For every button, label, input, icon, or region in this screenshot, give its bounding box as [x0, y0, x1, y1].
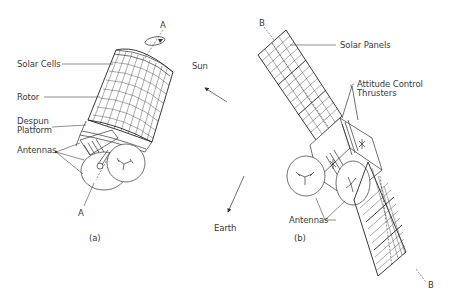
label-rotor: Rotor — [17, 93, 39, 102]
axis-label-a-top: A — [160, 21, 166, 30]
caption-a: (a) — [89, 234, 101, 243]
panel-axis-bottom — [416, 269, 426, 282]
label-earth: Earth — [214, 224, 236, 233]
satellite-diagram: A Solar Cells Rotor Despun Platform Ante… — [0, 0, 450, 301]
earth-arrow-icon — [228, 176, 244, 212]
leader-despun — [52, 125, 86, 127]
leader-antennas-a — [55, 143, 84, 174]
label-despun-line2: Platform — [17, 126, 52, 135]
panel-axis-top — [264, 27, 274, 40]
label-solar-panels: Solar Panels — [340, 41, 391, 50]
rotation-arrow-icon — [144, 35, 165, 46]
antenna-dishes-a — [80, 130, 145, 190]
caption-b: (b) — [294, 234, 306, 243]
antenna-dish-b-left — [287, 156, 325, 196]
upper-solar-panel — [258, 30, 342, 140]
rotor-cylinder — [88, 49, 173, 142]
spin-satellite — [76, 30, 173, 206]
leader-thrusters — [350, 84, 354, 86]
lower-solar-panel — [354, 162, 406, 276]
label-sun: Sun — [192, 62, 208, 71]
axis-label-b-bottom: B — [428, 281, 434, 290]
axis-label-a-bottom: A — [78, 209, 84, 218]
label-antennas-a: Antennas — [17, 146, 56, 155]
label-solar-cells: Solar Cells — [17, 60, 61, 69]
three-axis-satellite — [258, 27, 426, 282]
sun-arrow-icon — [205, 88, 227, 102]
label-antennas-b: Antennas — [289, 216, 328, 225]
label-thrusters-line2: Thrusters — [357, 89, 396, 98]
antenna-dish-b-right — [336, 161, 370, 205]
axis-label-b-top: B — [259, 19, 265, 28]
